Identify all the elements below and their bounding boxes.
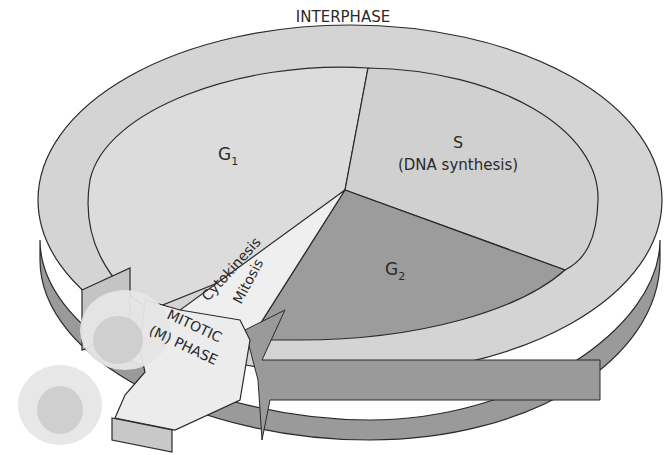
- interphase-label: INTERPHASE: [296, 8, 390, 26]
- daughter-cell-lower: [18, 365, 102, 445]
- cell-cycle-diagram: INTERPHASE G1 S (DNA synthesis) G2 Cytok…: [0, 0, 671, 455]
- s-label: S: [453, 133, 463, 152]
- s-sublabel: (DNA synthesis): [398, 156, 518, 174]
